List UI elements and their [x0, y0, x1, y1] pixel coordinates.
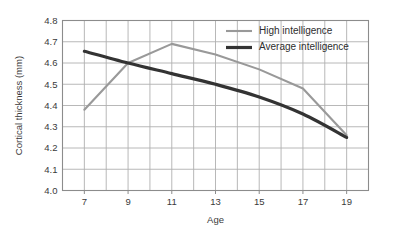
legend-label-1: High intelligence	[259, 25, 333, 36]
y-tick-label: 4.2	[44, 142, 57, 153]
y-tick-label: 4.1	[44, 164, 57, 175]
y-tick-label: 4.0	[44, 185, 57, 196]
x-tick-label: 15	[254, 196, 265, 207]
x-tick-label: 13	[210, 196, 221, 207]
x-axis-tick-labels: 791113151719	[82, 196, 352, 207]
y-tick-label: 4.7	[44, 36, 57, 47]
y-axis-title: Cortical thickness (mm)	[13, 56, 24, 155]
y-tick-label: 4.3	[44, 121, 57, 132]
x-axis-title: Age	[207, 214, 224, 225]
y-tick-label: 4.8	[44, 15, 57, 26]
x-tick-label: 9	[125, 196, 130, 207]
line-chart: 4.04.14.24.34.44.54.64.74.8 791113151719…	[0, 0, 394, 248]
x-tick-label: 11	[167, 196, 177, 207]
y-tick-label: 4.5	[44, 79, 57, 90]
y-tick-label: 4.4	[44, 100, 57, 111]
chart-figure: 4.04.14.24.34.44.54.64.74.8 791113151719…	[0, 0, 394, 248]
y-tick-label: 4.6	[44, 57, 57, 68]
x-tick-label: 19	[341, 196, 352, 207]
x-tick-label: 17	[298, 196, 309, 207]
legend-label-2: Average intelligence	[259, 41, 349, 52]
x-tick-label: 7	[82, 196, 87, 207]
y-axis-tick-labels: 4.04.14.24.34.44.54.64.74.8	[44, 15, 57, 196]
